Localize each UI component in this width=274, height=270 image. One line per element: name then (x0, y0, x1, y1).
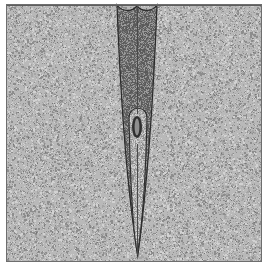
scientific-figure-canvas (0, 0, 274, 270)
figure-container: Cross-section of tapering wedge intrusio… (0, 0, 274, 270)
